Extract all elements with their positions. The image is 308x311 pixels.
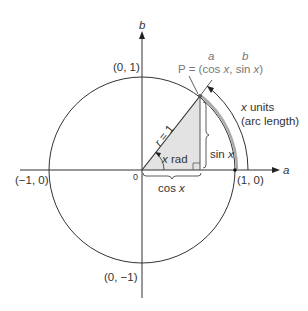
unit-circle-diagram: b a 0 (0, 1) (0, −1) (−1, 0) (1, 0) a b … [0,0,308,311]
point-p-dot [198,94,202,98]
sin-brace [203,102,209,168]
cos-label: cos x [158,182,186,194]
point-1-0-dot [233,168,237,172]
b-axis-label: b [139,19,146,31]
b-axis-arrow-icon [139,31,145,39]
a-axis-label: a [283,164,289,176]
angle-label: x rad [161,153,188,165]
point-left-label: (−1, 0) [15,174,49,186]
p-a-annotation: a [208,50,214,62]
point-top-label: (0, 1) [113,61,140,73]
point-right-label: (1, 0) [237,174,264,186]
point-bottom-label: (0, −1) [104,271,138,283]
point-p-label: P = (cos x, sin x) [178,63,263,75]
cos-brace [143,173,201,179]
a-axis-arrow-icon [272,167,280,173]
arc-arrow-icon [207,86,214,93]
arc-units-label: x units [240,101,274,113]
origin-label: 0 [133,172,138,182]
sin-label: sin x [210,148,235,160]
p-leader-line [189,76,198,94]
arc-length-label: (arc length) [241,115,299,127]
p-b-annotation: b [242,50,249,62]
